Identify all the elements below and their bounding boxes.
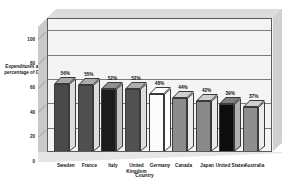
- bar: [196, 101, 211, 152]
- bar-value-label: 37%: [239, 94, 269, 99]
- bar-front-face: [54, 84, 69, 152]
- bar-front-face: [149, 94, 164, 152]
- x-axis-category-label: Australia: [236, 163, 272, 169]
- bar-side-face: [69, 78, 76, 152]
- bar-side-face: [140, 83, 147, 152]
- bar-front-face: [101, 89, 116, 152]
- bar-front-face: [243, 107, 258, 152]
- bar-front-face: [78, 85, 93, 152]
- chart-canvas: Expenditures as a percentage of GDP 0204…: [0, 0, 289, 189]
- bar-side-face: [93, 79, 100, 152]
- bar: [125, 89, 140, 152]
- bar-side-face: [164, 88, 171, 152]
- bar-side-face: [211, 95, 218, 152]
- bar: [54, 84, 69, 152]
- bar: [219, 104, 234, 152]
- bar-front-face: [172, 98, 187, 152]
- bar-side-face: [234, 99, 241, 152]
- bar-side-face: [258, 101, 265, 152]
- bar: [172, 98, 187, 152]
- bar-front-face: [219, 104, 234, 152]
- bar: [101, 89, 116, 152]
- bar-side-face: [187, 93, 194, 152]
- bar: [243, 107, 258, 152]
- bar: [149, 94, 164, 152]
- bar: [78, 85, 93, 152]
- bar-front-face: [196, 101, 211, 152]
- bar-side-face: [116, 83, 123, 152]
- bar-front-face: [125, 89, 140, 152]
- x-axis-title: Country: [0, 173, 289, 178]
